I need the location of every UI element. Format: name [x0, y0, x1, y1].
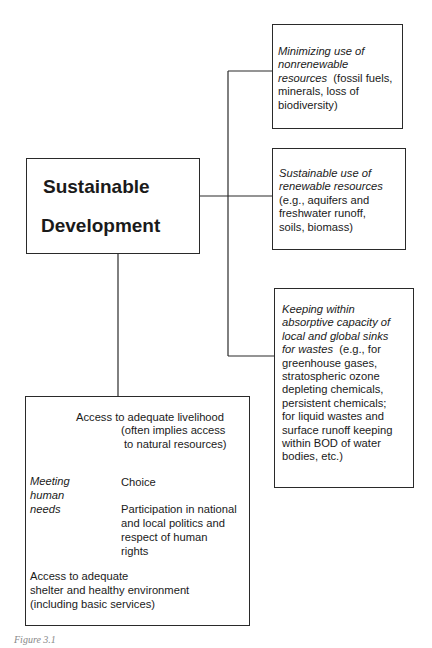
figure-caption: Figure 3.1: [14, 634, 56, 645]
box3-italic-0: Keeping within: [282, 303, 413, 316]
needs-label-0: Meeting: [30, 475, 70, 488]
box3-rest-3: persistent chemicals;: [282, 397, 413, 410]
box3-italic-1: absorptive capacity of: [282, 316, 413, 329]
sustainable-development-box: Sustainable Development: [26, 158, 200, 254]
box3-rest-7: bodies, etc.): [282, 450, 413, 463]
needs-label-2: needs: [30, 503, 60, 516]
box2-rest-0: (e.g., aquifers and: [279, 194, 405, 207]
box3-rest-4: for liquid wastes and: [282, 410, 413, 423]
box3-italic-3: for wastes: [282, 343, 333, 355]
livelihood-0: Access to adequate livelihood: [76, 411, 224, 424]
shelter-0: Access to adequate: [30, 570, 128, 583]
box2-italic-0: Sustainable use of: [279, 167, 405, 180]
participation-3: rights: [121, 545, 148, 558]
box2-rest-2: soils, biomass): [279, 221, 405, 234]
box2-rest-1: freshwater runoff,: [279, 207, 405, 220]
sd-title-line1: Sustainable: [43, 176, 150, 198]
shelter-1: shelter and healthy environment: [30, 584, 189, 597]
waste-sinks-box: Keeping within absorptive capacity of lo…: [274, 288, 414, 488]
needs-label-1: human: [30, 489, 64, 502]
box3-rest-2: depleting chemicals,: [282, 383, 413, 396]
box3-after-italic: (e.g., for: [333, 343, 381, 355]
livelihood-2: to natural resources): [124, 438, 227, 451]
box1-rest-0: minerals, loss of: [278, 85, 402, 98]
box1-italic-1: nonrenewable: [278, 58, 402, 71]
box1-italic-2: resources: [278, 72, 327, 84]
participation-1: and local politics and: [121, 517, 225, 530]
renewable-resources-box: Sustainable use of renewable resources (…: [272, 148, 406, 250]
participation-0: Participation in national: [121, 503, 237, 516]
box3-rest-1: stratospheric ozone: [282, 370, 413, 383]
choice-text: Choice: [121, 476, 156, 489]
shelter-2: (including basic services): [30, 598, 155, 611]
livelihood-1: (often implies access: [121, 424, 225, 437]
box1-after-italic: (fossil fuels,: [327, 72, 392, 84]
box1-rest-1: biodiversity): [278, 99, 402, 112]
sd-title-line2: Development: [41, 215, 160, 237]
box2-italic-1: renewable resources: [279, 180, 405, 193]
box3-italic-2: local and global sinks: [282, 330, 413, 343]
box3-rest-6: within BOD of water: [282, 437, 413, 450]
participation-2: respect of human: [121, 531, 207, 544]
box1-italic-0: Minimizing use of: [278, 45, 402, 58]
box3-rest-5: surface runoff keeping: [282, 424, 413, 437]
box3-rest-0: greenhouse gases,: [282, 357, 413, 370]
nonrenewable-resources-box: Minimizing use of nonrenewable resources…: [272, 24, 403, 129]
